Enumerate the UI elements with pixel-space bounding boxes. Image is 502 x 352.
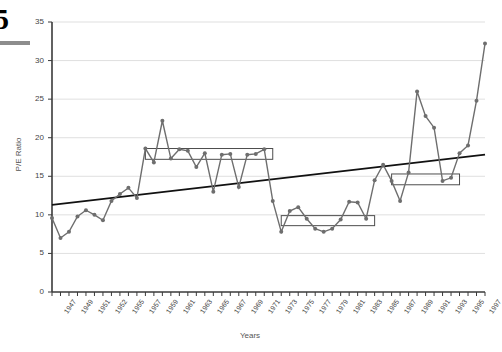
data-point-marker (322, 230, 326, 234)
data-point-marker (67, 230, 71, 234)
pe-ratio-line (52, 44, 485, 238)
data-point-marker (288, 209, 292, 213)
y-tick-label: 20 (18, 133, 44, 142)
data-point-marker (92, 213, 96, 217)
data-point-marker (339, 217, 343, 221)
data-point-marker (373, 178, 377, 182)
data-point-marker (186, 149, 190, 153)
y-tick-label: 15 (18, 171, 44, 180)
data-point-marker (220, 153, 224, 157)
data-point-marker (347, 200, 351, 204)
data-point-marker (135, 196, 139, 200)
data-point-marker (118, 192, 122, 196)
data-point-marker (407, 170, 411, 174)
data-point-marker (177, 147, 181, 151)
data-point-marker (390, 179, 394, 183)
data-point-marker (262, 147, 266, 151)
data-point-marker (364, 217, 368, 221)
data-point-marker (466, 143, 470, 147)
data-point-marker (271, 199, 275, 203)
data-point-marker (305, 217, 309, 221)
x-axis-title: Years (0, 331, 500, 340)
data-point-marker (101, 218, 105, 222)
data-point-marker (415, 89, 419, 93)
data-point-marker (398, 199, 402, 203)
data-point-marker (483, 42, 487, 46)
data-point-marker (449, 176, 453, 180)
data-point-marker (458, 151, 462, 155)
data-point-marker (424, 114, 428, 118)
data-point-marker (441, 179, 445, 183)
data-point-marker (279, 230, 283, 234)
data-point-marker (203, 151, 207, 155)
data-point-marker (211, 190, 215, 194)
data-point-marker (152, 160, 156, 164)
data-point-marker (58, 236, 62, 240)
data-point-marker (330, 227, 334, 231)
y-tick-label: 5 (18, 248, 44, 257)
data-point-marker (109, 199, 113, 203)
data-point-marker (194, 165, 198, 169)
y-tick-label: 0 (18, 287, 44, 296)
range-box-1987-1995 (392, 174, 460, 185)
data-point-marker (84, 208, 88, 212)
data-point-marker (245, 153, 249, 157)
data-point-marker (475, 99, 479, 103)
data-point-marker (237, 185, 241, 189)
data-point-marker (50, 216, 54, 220)
y-tick-label: 30 (18, 56, 44, 65)
y-tick-label: 35 (18, 17, 44, 26)
data-point-marker (432, 126, 436, 130)
data-point-marker (169, 157, 173, 161)
data-point-marker (126, 186, 130, 190)
data-point-marker (356, 201, 360, 205)
data-point-marker (75, 214, 79, 218)
data-point-marker (313, 227, 317, 231)
data-point-marker (143, 147, 147, 151)
range-box-1975-1985 (281, 216, 374, 226)
data-point-marker (381, 163, 385, 167)
data-point-marker (296, 205, 300, 209)
data-point-marker (254, 152, 258, 156)
y-tick-label: 10 (18, 210, 44, 219)
data-point-marker (160, 119, 164, 123)
data-point-marker (228, 152, 232, 156)
y-tick-label: 25 (18, 94, 44, 103)
